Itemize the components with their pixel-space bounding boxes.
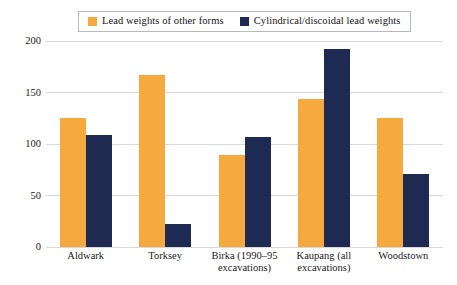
y-axis-tick-label: 50 xyxy=(1,191,41,202)
y-axis: 050100150200 xyxy=(0,41,41,247)
chart-legend: Lead weights of other forms Cylindrical/… xyxy=(78,11,411,32)
legend-swatch-orange xyxy=(88,17,97,26)
x-axis-category-label: Aldwark xyxy=(46,250,125,262)
gridline xyxy=(46,92,443,93)
bar-woodstown-series-1 xyxy=(377,118,403,247)
bar-torksey-series-1 xyxy=(139,75,165,247)
y-axis-tick-label: 100 xyxy=(1,139,41,150)
legend-swatch-navy xyxy=(240,17,249,26)
bar-birka-1990-95-excavations-series-2 xyxy=(245,137,271,247)
plot-area xyxy=(46,41,443,247)
x-axis-category-label: Torksey xyxy=(125,250,204,262)
bar-kaupang-all-excavations-series-1 xyxy=(298,99,324,247)
y-axis-tick-label: 0 xyxy=(1,242,41,253)
x-axis-category-label: Woodstown xyxy=(364,250,443,262)
bar-woodstown-series-2 xyxy=(403,174,429,247)
bar-aldwark-series-2 xyxy=(86,135,112,247)
x-axis-labels: AldwarkTorkseyBirka (1990–95excavations)… xyxy=(46,250,443,284)
bar-chart: Lead weights of other forms Cylindrical/… xyxy=(0,0,457,285)
legend-entry-other-forms: Lead weights of other forms xyxy=(88,16,224,27)
bar-aldwark-series-1 xyxy=(60,118,86,247)
legend-label-other-forms: Lead weights of other forms xyxy=(102,16,224,27)
x-axis-category-label: Birka (1990–95excavations) xyxy=(205,250,284,273)
bar-torksey-series-2 xyxy=(165,224,191,247)
bar-kaupang-all-excavations-series-2 xyxy=(324,49,350,247)
x-axis-category-label: Kaupang (allexcavations) xyxy=(284,250,363,273)
y-axis-tick-label: 200 xyxy=(1,36,41,47)
y-axis-tick-label: 150 xyxy=(1,88,41,99)
bar-birka-1990-95-excavations-series-1 xyxy=(219,155,245,247)
gridline xyxy=(46,41,443,42)
legend-entry-cylindrical-discoidal: Cylindrical/discoidal lead weights xyxy=(240,16,401,27)
legend-label-cylindrical-discoidal: Cylindrical/discoidal lead weights xyxy=(254,16,401,27)
